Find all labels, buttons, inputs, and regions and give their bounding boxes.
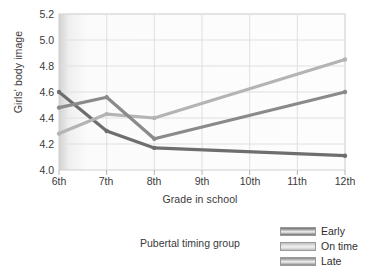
legend-label-late: Late (321, 256, 341, 267)
data-point (343, 57, 347, 61)
legend-swatch-on-time (280, 242, 316, 251)
data-point (343, 154, 347, 158)
x-tick-label: 11th (275, 175, 319, 187)
x-tick-label: 6th (37, 175, 81, 187)
data-point (152, 116, 156, 120)
legend-swatch-late (280, 257, 316, 266)
x-tick-label: 9th (180, 175, 224, 187)
data-point (343, 90, 347, 94)
data-point (57, 105, 61, 109)
data-point (57, 90, 61, 94)
x-axis-title: Grade in school (55, 193, 345, 205)
x-tick-label: 12th (323, 175, 366, 187)
legend-label-on-time: On time (321, 241, 358, 252)
legend-swatch-early (280, 227, 316, 236)
data-point (105, 95, 109, 99)
x-tick-label: 8th (132, 175, 176, 187)
legend-label-early: Early (321, 226, 345, 237)
legend: Pubertal timing group Early On time Late (140, 222, 360, 272)
x-tick-label: 10th (228, 175, 272, 187)
legend-item-late: Late (280, 255, 341, 268)
chart-figure: Girls' body image 5.2 5.0 4.8 4.6 4.4 4.… (0, 0, 366, 276)
data-point (105, 129, 109, 133)
data-point (105, 112, 109, 116)
data-point (152, 137, 156, 141)
legend-title: Pubertal timing group (140, 237, 240, 249)
data-point (152, 146, 156, 150)
legend-item-on-time: On time (280, 240, 358, 253)
x-tick-label: 7th (84, 175, 128, 187)
data-point (57, 131, 61, 135)
legend-item-early: Early (280, 225, 345, 238)
